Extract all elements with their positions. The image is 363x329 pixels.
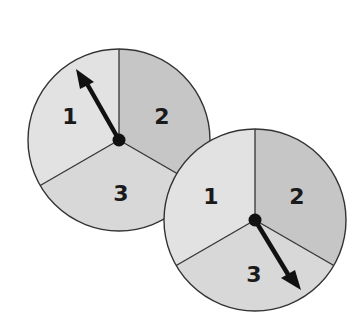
spinner-1-label-2: 2 <box>154 104 169 129</box>
spinner-2-label-3: 3 <box>246 262 261 287</box>
spinner-2-pivot <box>249 214 262 227</box>
spinner-2-label-1: 1 <box>203 184 218 209</box>
spinner-1-label-3: 3 <box>113 181 128 206</box>
spinner-1-pivot <box>113 134 126 147</box>
spinner-1-label-1: 1 <box>62 104 77 129</box>
spinners-figure: 1 2 3 1 2 3 <box>0 0 363 329</box>
spinner-2-label-2: 2 <box>289 184 304 209</box>
